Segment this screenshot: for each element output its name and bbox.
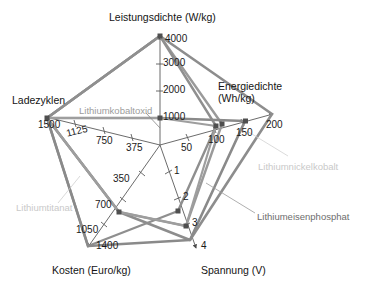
axis-title-energiedichte-line1: Energiedichte [218,81,282,93]
series-label-lithiumnickelkobalt: Lithiumnickelkobalt [258,162,338,173]
series-label-lithiumtitanat: Lithiumtitanat [16,203,73,214]
series-label-lithiumkobaltoxid: Lithiumkobaltoxid [79,106,152,117]
tick-kosten-1050: 1050 [76,224,98,235]
tick-energiedichte-50: 50 [181,142,192,153]
axis-title-ladezyklen: Ladezyklen [12,95,65,107]
tick-energiedichte-150: 150 [236,127,253,138]
series-label-lithiumeisenphosphat: Lithiumeisenphosphat [257,212,349,223]
tick-ladezyklen-750: 750 [96,135,113,146]
tick-energiedichte-100: 100 [208,134,225,145]
axis-spokes [46,36,273,248]
tick-ladezyklen-1500: 1500 [38,119,60,130]
tick-energiedichte-200: 200 [266,119,283,130]
radar-chart-figure: Leistungsdichte (W/kg) Energiedichte (Wh… [0,0,365,288]
tick-leistungsdichte-2000: 2000 [163,84,185,95]
tick-leistungsdichte-3000: 3000 [163,57,185,68]
axis-title-energiedichte-line2: (Wh/kg) [218,93,255,105]
axis-title-kosten: Kosten (Euro/kg) [52,265,131,277]
axis-spoke-spannung [160,145,196,248]
tick-spannung-4: 4 [201,240,207,251]
tick-leistungsdichte-4000: 4000 [165,33,187,44]
axis-title-leistungsdichte: Leistungsdichte (W/kg) [109,12,216,24]
tick-spannung-3: 3 [192,217,198,228]
tick-spannung-1: 1 [174,165,180,176]
tick-spannung-2: 2 [183,191,189,202]
tick-kosten-350: 350 [113,173,130,184]
tick-kosten-700: 700 [95,199,112,210]
axis-title-spannung: Spannung (V) [201,265,266,277]
tick-kosten-1400: 1400 [96,240,118,251]
tick-ladezyklen-375: 375 [126,142,143,153]
leader-lithiumtitanat [58,176,80,203]
tick-leistungsdichte-1000: 1000 [163,111,185,122]
leader-lithiumeisenphosphat [206,183,255,213]
